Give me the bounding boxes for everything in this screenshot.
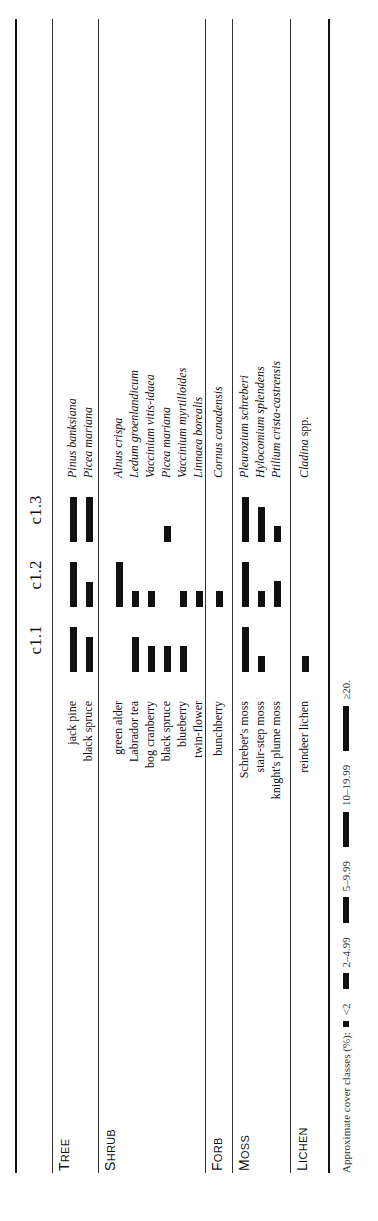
cover-bar: [132, 637, 139, 672]
cover-bar: [180, 646, 187, 672]
common-name: black spruce: [82, 701, 95, 761]
bottom-rule: [328, 19, 330, 1173]
legend-class: ≥20.: [340, 680, 352, 700]
column-header-c1-1: c1.1: [26, 610, 46, 670]
legend-class: 5–9.99: [340, 861, 352, 891]
latin-name: Hylocomium splendens: [254, 366, 267, 478]
cover-bar: [302, 656, 309, 672]
common-name: Schreber's moss: [238, 701, 251, 778]
legend: Approximate cover classes (%): <2 2–4.99…: [340, 680, 352, 1173]
cover-bar: [258, 507, 265, 542]
cover-bar: [70, 562, 77, 607]
cover-bar: [242, 627, 249, 672]
latin-name: Pleurozium schreberi: [238, 375, 251, 478]
latin-name: Alnus crispa: [112, 418, 125, 478]
legend-class: 2–4.99: [340, 937, 352, 967]
latin-name: Cladina spp.: [298, 417, 311, 478]
latin-name: Vaccinium vitis-idaea: [144, 374, 157, 478]
legend-swatch: [343, 812, 349, 847]
latin-name: Pinus banksiana: [66, 398, 79, 478]
column-header-c1-3: c1.3: [26, 480, 46, 540]
cover-bar: [196, 591, 203, 607]
group-rule: [290, 19, 291, 1173]
latin-name: Ledum groenlandicum: [128, 370, 141, 478]
cover-bar: [180, 591, 187, 607]
cover-bar: [132, 591, 139, 607]
latin-name: Picea mariana: [82, 407, 95, 478]
group-rule: [98, 19, 99, 1173]
cover-bar: [274, 526, 281, 542]
column-header-c1-2: c1.2: [26, 545, 46, 605]
cover-bar: [70, 497, 77, 542]
legend-swatch: [343, 706, 349, 751]
cover-bar: [242, 562, 249, 607]
cover-bar: [164, 526, 171, 542]
latin-name: Picea mariana: [160, 407, 173, 478]
common-name: knight's plume moss: [270, 701, 283, 799]
common-name: green alder: [112, 701, 125, 755]
legend-swatch: [343, 897, 349, 923]
common-name: blueberry: [176, 701, 189, 747]
legend-swatch: [343, 1021, 349, 1027]
cover-bar: [86, 582, 93, 607]
cover-bar: [274, 581, 281, 607]
common-name: Labrador tea: [128, 701, 141, 762]
cover-bar: [148, 591, 155, 607]
common-name: reindeer lichen: [298, 701, 311, 773]
category-forb: FORB: [209, 1137, 225, 1171]
cover-bar: [70, 627, 77, 672]
latin-name: Linnaea borealis: [192, 397, 205, 478]
group-rule: [205, 19, 206, 1173]
cover-bar: [258, 591, 265, 607]
legend-swatch: [343, 973, 349, 989]
latin-name: Cornus canadensis: [212, 386, 225, 478]
cover-bar: [148, 646, 155, 672]
category-lichen: LICHEN: [294, 1127, 310, 1171]
cover-bar: [242, 497, 249, 542]
cover-bar: [86, 637, 93, 672]
common-name: bunchberry: [212, 701, 225, 756]
latin-name: Ptilium crista-castrensis: [270, 361, 283, 478]
cover-bar: [216, 591, 223, 607]
category-tree: TREE: [56, 1139, 72, 1171]
legend-class: <2: [340, 1003, 352, 1015]
legend-label: Approximate cover classes (%):: [340, 1032, 352, 1173]
latin-name: Vaccinium myrtilloides: [176, 368, 189, 478]
cover-bar: [116, 562, 123, 607]
legend-class: 10–19.99: [340, 765, 352, 806]
common-name: black spruce: [160, 701, 173, 761]
category-shrub: SHRUB: [102, 1129, 118, 1171]
common-name: twin-flower: [192, 701, 205, 758]
category-moss: MOSS: [236, 1135, 252, 1171]
cover-bar: [86, 497, 93, 542]
cover-bar: [258, 656, 265, 672]
common-name: jack pine: [66, 701, 79, 745]
group-rule: [232, 19, 233, 1173]
top-rule: [15, 19, 17, 1173]
rotated-table-page: c1.1 c1.2 c1.3 TREE jack pine black spru…: [0, 0, 378, 1221]
cover-bar: [164, 646, 171, 672]
common-name: bog cranberry: [144, 701, 157, 768]
common-name: stair-step moss: [254, 701, 267, 772]
header-rule: [52, 19, 53, 1173]
